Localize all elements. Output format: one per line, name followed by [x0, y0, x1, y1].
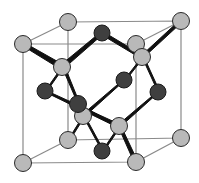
- light-atom: [173, 13, 190, 30]
- dark-atom: [116, 72, 132, 88]
- crystal-structure-diagram: [0, 0, 199, 183]
- light-atom: [15, 155, 32, 172]
- light-atom: [173, 130, 190, 147]
- light-atom: [134, 49, 151, 66]
- dark-atom: [70, 96, 87, 113]
- dark-atom: [94, 25, 110, 41]
- light-atom: [54, 59, 71, 76]
- dark-atom: [150, 84, 166, 100]
- dark-atom: [37, 83, 53, 99]
- dark-atom: [94, 143, 110, 159]
- light-atom: [111, 118, 128, 135]
- light-atom: [60, 132, 77, 149]
- light-atom: [15, 36, 32, 53]
- light-atom: [60, 14, 77, 31]
- light-atom: [128, 154, 145, 171]
